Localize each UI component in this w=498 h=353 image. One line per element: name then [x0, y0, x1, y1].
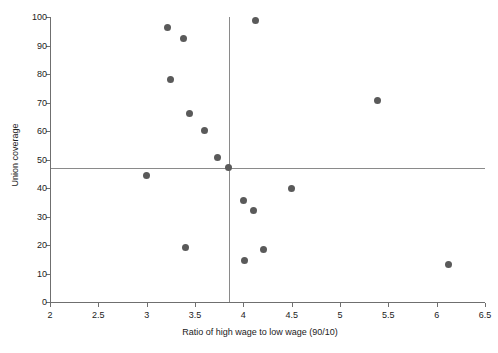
reference-line-horizontal: [50, 168, 485, 169]
x-tick-mark: [243, 303, 244, 307]
plot-area: [0, 0, 498, 353]
data-point: [260, 246, 267, 253]
data-point: [143, 172, 150, 179]
y-tick-label: 90: [37, 40, 47, 51]
x-tick-label: 4.5: [285, 310, 298, 321]
x-tick-label: 5.5: [382, 310, 395, 321]
x-axis-line: [50, 302, 485, 303]
x-tick-label: 3.5: [189, 310, 202, 321]
x-tick-label: 2.5: [92, 310, 105, 321]
x-tick-label: 2: [47, 310, 52, 321]
y-tick-label: 10: [37, 268, 47, 279]
x-tick-label: 3: [144, 310, 149, 321]
data-point: [180, 35, 187, 42]
y-tick-label: 30: [37, 211, 47, 222]
y-tick-label: 50: [37, 154, 47, 165]
data-point: [241, 257, 248, 264]
y-tick-label: 80: [37, 69, 47, 80]
x-axis-title: Ratio of high wage to low wage (90/10): [0, 327, 498, 337]
y-tick-label: 0: [42, 297, 47, 308]
y-axis-title: Union coverage: [10, 75, 20, 235]
y-tick-label: 60: [37, 126, 47, 137]
data-point: [186, 110, 193, 117]
y-tick-label: 20: [37, 240, 47, 251]
x-tick-label: 5: [337, 310, 342, 321]
x-tick-mark: [98, 303, 99, 307]
x-tick-mark: [485, 303, 486, 307]
x-tick-label: 6: [434, 310, 439, 321]
x-tick-mark: [195, 303, 196, 307]
data-point: [445, 261, 452, 268]
x-tick-mark: [437, 303, 438, 307]
data-point: [240, 197, 247, 204]
x-tick-mark: [292, 303, 293, 307]
x-tick-label: 4: [241, 310, 246, 321]
x-tick-label: 6.5: [479, 310, 492, 321]
y-tick-label: 100: [32, 12, 47, 23]
reference-line-vertical: [229, 17, 230, 302]
data-point: [214, 154, 221, 161]
y-tick-label: 40: [37, 183, 47, 194]
data-point: [164, 24, 171, 31]
data-point: [252, 17, 259, 24]
data-point: [288, 185, 295, 192]
x-tick-mark: [388, 303, 389, 307]
data-point: [225, 164, 232, 171]
data-point: [201, 127, 208, 134]
data-point: [167, 76, 174, 83]
y-axis-line: [50, 17, 51, 302]
y-tick-label: 70: [37, 97, 47, 108]
x-tick-mark: [50, 303, 51, 307]
data-point: [374, 97, 381, 104]
x-tick-mark: [147, 303, 148, 307]
scatter-chart: 22.533.544.555.566.5 0102030405060708090…: [0, 0, 498, 353]
x-tick-mark: [340, 303, 341, 307]
data-point: [250, 207, 257, 214]
data-point: [182, 244, 189, 251]
